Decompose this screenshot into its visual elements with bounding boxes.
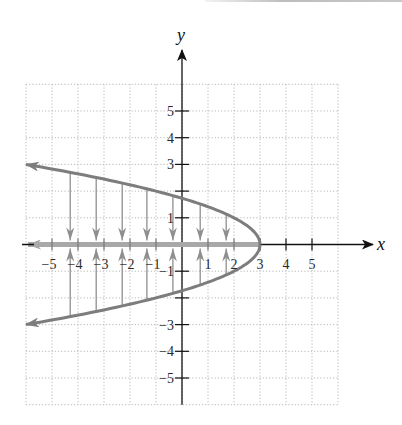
y-tick-label: −1 bbox=[159, 264, 174, 279]
y-tick-label: −5 bbox=[159, 371, 174, 386]
x-tick-label: −3 bbox=[94, 257, 109, 272]
y-axis-label: y bbox=[175, 25, 185, 45]
x-tick-label: −2 bbox=[120, 257, 135, 272]
y-tick-label: 4 bbox=[167, 131, 174, 146]
y-tick-label: 3 bbox=[167, 157, 174, 172]
x-tick-label: −4 bbox=[68, 257, 83, 272]
y-tick-label: −4 bbox=[159, 344, 174, 359]
x-tick-label: −5 bbox=[42, 257, 57, 272]
y-tick-label: 1 bbox=[167, 211, 174, 226]
y-tick-label: 5 bbox=[167, 104, 174, 119]
coordinate-plane: −5−4−3−2−1123455431−1−3−4−5 y x bbox=[0, 0, 402, 425]
x-tick-label: 3 bbox=[257, 257, 264, 272]
x-tick-label: 2 bbox=[231, 257, 238, 272]
x-axis-label: x bbox=[376, 234, 385, 254]
x-tick-label: 5 bbox=[309, 257, 316, 272]
x-tick-label: 4 bbox=[283, 257, 290, 272]
y-tick-label: −3 bbox=[159, 318, 174, 333]
x-tick-label: 1 bbox=[205, 257, 212, 272]
